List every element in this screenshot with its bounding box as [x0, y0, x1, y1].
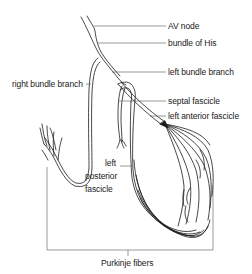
right-bundle-branch: [40, 58, 100, 186]
label-bundle-of-his: bundle of His: [168, 38, 216, 48]
label-av-node: AV node: [168, 21, 199, 31]
purkinje-bracket: [47, 167, 213, 250]
purkinje-fiber-fan: [165, 124, 213, 226]
septal-fascicle: [117, 86, 126, 148]
label-left-posterior-fascicle-line2: posterior: [85, 171, 117, 181]
label-purkinje-fibers: Purkinje fibers: [101, 258, 153, 268]
label-septal-fascicle: septal fascicle: [168, 96, 220, 106]
label-right-bundle-branch: right bundle branch: [12, 79, 83, 89]
label-left-bundle-branch: left bundle branch: [168, 67, 234, 77]
left-bundle-branch: [118, 82, 135, 102]
label-left-posterior-fascicle-line3: fascicle: [85, 184, 113, 194]
av-node-and-his-bundle: [81, 16, 126, 85]
label-left-anterior-fascicle: left anterior fascicle: [168, 111, 239, 121]
left-anterior-fascicle: [118, 82, 168, 128]
label-left-posterior-fascicle-line1: left: [105, 158, 116, 168]
